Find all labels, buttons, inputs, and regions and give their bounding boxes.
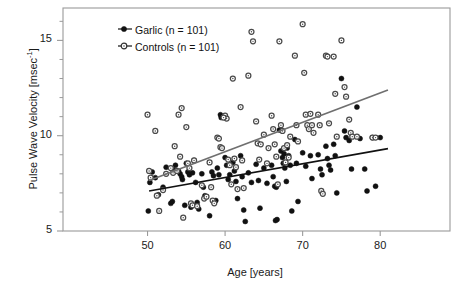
x-axis-title: Age [years] [185,266,325,278]
y-axis-title: Pulse Wave Velocity [msec-1] [25,39,39,199]
data-point-garlic [243,219,248,224]
data-point-garlic [289,208,294,213]
data-point-garlic [334,190,339,195]
data-point-garlic [264,181,269,186]
data-point-control-center [263,134,264,135]
data-point-control-center [229,165,230,166]
data-point-control-center [322,193,323,194]
data-point-control-center [210,186,211,187]
data-point-control-center [187,163,188,164]
data-point-garlic [342,128,347,133]
data-point-control-center [294,55,295,56]
data-point-control-center [350,132,351,133]
data-point-control-center [221,147,222,148]
data-point-control-center [352,136,353,137]
data-point-garlic [216,172,221,177]
data-point-control-center [327,56,328,57]
data-point-garlic [327,163,332,168]
data-point-garlic [349,167,354,172]
data-point-control-center [162,189,163,190]
data-point-garlic [282,151,287,156]
y-tick-label: 5 [22,223,52,235]
data-point-garlic [362,167,367,172]
data-point-control-center [260,144,261,145]
data-point-garlic [328,168,333,173]
legend-label-controls: Controls (n = 101) [135,41,219,53]
data-point-control-center [158,210,159,211]
data-point-control-center [344,86,345,87]
data-point-control-center [375,137,376,138]
data-point-control-center [237,188,238,189]
data-point-control-center [186,126,187,127]
legend-marker-controls [118,40,134,52]
data-point-garlic [331,142,336,147]
data-point-control-center [178,114,179,115]
data-point-control-center [307,125,308,126]
data-point-garlic [180,177,185,182]
x-tick-label: 80 [365,239,395,251]
pulse-wave-velocity-scatter-chart: Pulse Wave Velocity [msec-1] Age [years]… [0,0,461,285]
data-point-control-center [348,119,349,120]
data-point-control-center [313,132,314,133]
data-point-garlic [373,184,378,189]
data-point-garlic [207,213,212,218]
data-point-garlic [365,188,370,193]
data-point-garlic [323,144,328,149]
legend-open-circle-center [123,45,124,46]
data-point-control-center [235,166,236,167]
data-point-control-center [192,205,193,206]
data-point-control-center [240,106,241,107]
data-point-control-center [303,72,304,73]
data-point-control-center [277,184,278,185]
data-point-garlic [211,173,216,178]
data-point-control-center [311,125,312,126]
data-point-control-center [206,196,207,197]
data-point-control-center [148,170,149,171]
data-point-control-center [181,107,182,108]
x-tick-label: 50 [133,239,163,251]
data-point-control-center [268,147,269,148]
data-point-control-center [276,156,277,157]
data-point-garlic [303,164,308,169]
data-point-control-center [248,75,249,76]
data-point-control-center [241,160,242,161]
data-point-control-center [345,96,346,97]
y-axis-title-text: Pulse Wave Velocity [msec [27,58,39,190]
data-point-control-center [290,136,291,137]
data-point-garlic [354,105,359,110]
data-point-control-center [214,203,215,204]
data-point-garlic [318,167,323,172]
data-point-garlic [146,208,151,213]
y-axis-title-exponent: -1 [25,51,34,58]
data-point-control-center [155,130,156,131]
y-tick-label: 15 [22,32,52,44]
data-point-control-center [179,156,180,157]
data-point-garlic [256,178,261,183]
data-point-control-center [231,184,232,185]
data-point-control-center [285,162,286,163]
legend-marker-garlic [118,23,134,35]
data-point-control-center [223,117,224,118]
data-point-control-center [147,114,148,115]
data-point-control-center [328,123,329,124]
data-point-control-center [286,145,287,146]
data-point-control-center [288,157,289,158]
data-point-garlic [284,179,289,184]
data-point-garlic [271,174,276,179]
data-point-control-center [271,115,272,116]
data-point-control-center [150,177,151,178]
data-point-garlic [235,196,240,201]
data-point-garlic [199,171,204,176]
data-point-control-center [183,217,184,218]
data-point-control-center [174,145,175,146]
data-point-control-center [280,125,281,126]
data-point-control-center [279,41,280,42]
data-point-control-center [255,121,256,122]
data-point-control-center [272,128,273,129]
data-point-control-center [251,31,252,32]
data-point-garlic [182,203,187,208]
y-axis-title-bracket: ] [27,48,39,51]
data-point-garlic [257,206,262,211]
data-point-control-center [333,56,334,57]
legend-label-garlic: Garlic (n = 101) [135,24,208,36]
